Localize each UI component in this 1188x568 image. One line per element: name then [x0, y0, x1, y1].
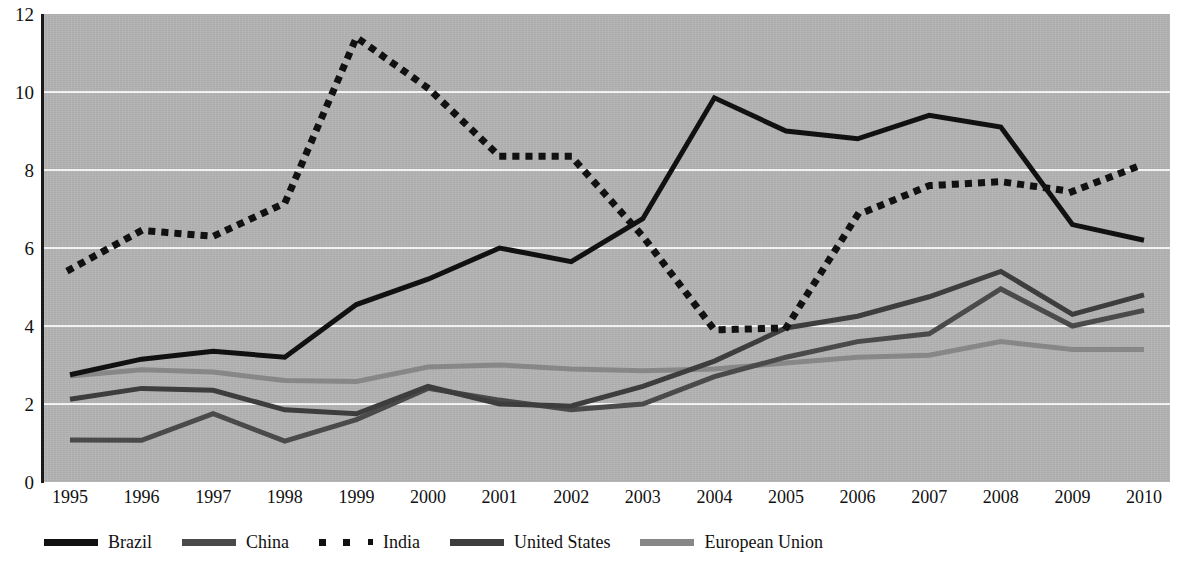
series-line-china	[70, 289, 1144, 441]
x-tick-label-1997: 1997	[195, 488, 231, 506]
line-chart: 024681012 199519961997199819992000200120…	[0, 0, 1188, 568]
x-tick-label-2005: 2005	[768, 488, 804, 506]
x-tick-label-2010: 2010	[1126, 488, 1162, 506]
x-tick-label-1999: 1999	[338, 488, 374, 506]
legend-item-united-states[interactable]: United States	[450, 533, 611, 551]
plot-area	[44, 14, 1170, 482]
series-line-brazil	[70, 98, 1144, 375]
chart-legend: BrazilChinaIndiaUnited StatesEuropean Un…	[44, 528, 853, 556]
x-tick-label-2002: 2002	[553, 488, 589, 506]
legend-swatch-china	[182, 539, 236, 546]
x-tick-label-2003: 2003	[625, 488, 661, 506]
x-tick-label-2008: 2008	[983, 488, 1019, 506]
y-tick-label-2: 2	[0, 395, 34, 414]
legend-label-european-union: European Union	[704, 533, 822, 551]
y-tick-label-10: 10	[0, 83, 34, 102]
series-line-european-union	[70, 342, 1144, 382]
series-layer	[44, 14, 1170, 482]
legend-label-brazil: Brazil	[108, 533, 152, 551]
x-tick-label-2004: 2004	[696, 488, 732, 506]
x-tick-label-2007: 2007	[911, 488, 947, 506]
legend-item-china[interactable]: China	[182, 533, 289, 551]
legend-label-india: India	[383, 533, 420, 551]
series-line-india	[70, 37, 1144, 330]
legend-item-european-union[interactable]: European Union	[640, 533, 822, 551]
x-axis-tick-labels: 1995199619971998199920002001200220032004…	[44, 488, 1170, 514]
x-tick-label-2001: 2001	[482, 488, 518, 506]
x-tick-label-1996: 1996	[124, 488, 160, 506]
x-tick-label-2000: 2000	[410, 488, 446, 506]
y-tick-label-0: 0	[0, 473, 34, 492]
legend-item-brazil[interactable]: Brazil	[44, 533, 152, 551]
y-tick-label-8: 8	[0, 161, 34, 180]
legend-swatch-united-states	[450, 539, 504, 546]
legend-swatch-brazil	[44, 539, 98, 546]
legend-item-india[interactable]: India	[319, 533, 420, 551]
x-tick-label-1995: 1995	[52, 488, 88, 506]
legend-label-united-states: United States	[514, 533, 611, 551]
x-tick-label-1998: 1998	[267, 488, 303, 506]
y-tick-label-4: 4	[0, 317, 34, 336]
y-tick-label-6: 6	[0, 239, 34, 258]
x-tick-label-2009: 2009	[1054, 488, 1090, 506]
y-tick-label-12: 12	[0, 5, 34, 24]
legend-swatch-india	[319, 539, 373, 546]
y-axis-line	[41, 14, 44, 483]
x-tick-label-2006: 2006	[840, 488, 876, 506]
legend-label-china: China	[246, 533, 289, 551]
legend-swatch-european-union	[640, 539, 694, 546]
